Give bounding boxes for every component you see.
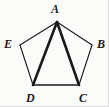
vertex-label-C: C (79, 92, 87, 104)
vertex-label-D: D (26, 92, 35, 104)
pentagon-diagonal-AC (57, 22, 79, 85)
vertex-label-E: E (4, 38, 12, 50)
pentagon-side-BC (79, 45, 92, 85)
vertex-label-B: B (97, 38, 105, 50)
pentagon-drawing-canvas (0, 0, 109, 107)
pentagon-diagonal-AD (33, 22, 57, 85)
pentagon-diagram: A B C D E (0, 0, 109, 107)
vertex-label-A: A (51, 3, 59, 15)
pentagon-side-DE (20, 45, 33, 85)
